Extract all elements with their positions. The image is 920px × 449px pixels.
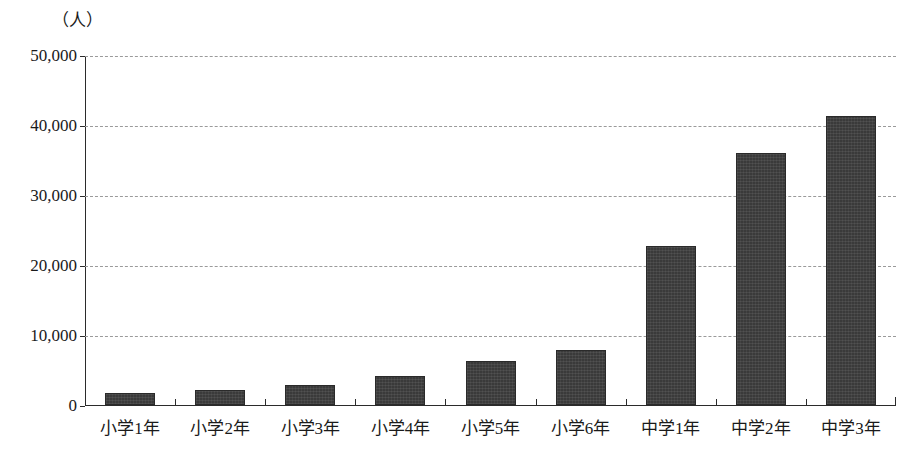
x-axis-tick xyxy=(355,399,356,406)
x-axis-tick xyxy=(536,399,537,406)
bar xyxy=(285,385,335,405)
plot-inner: 010,00020,00030,00040,00050,000 xyxy=(85,56,896,406)
y-axis-tick xyxy=(80,336,85,337)
y-axis-tick xyxy=(80,266,85,267)
x-axis-tick xyxy=(445,399,446,406)
y-axis-tick xyxy=(80,196,85,197)
bar-chart: （人） 010,00020,00030,00040,00050,000 小学1年… xyxy=(0,0,920,449)
y-axis-tick-label: 30,000 xyxy=(30,186,77,206)
y-axis-tick xyxy=(80,406,85,407)
plot-area: 010,00020,00030,00040,00050,000 xyxy=(85,56,896,406)
x-axis-line xyxy=(85,405,896,406)
y-axis-tick-label: 40,000 xyxy=(30,116,77,136)
x-axis-category-label: 小学5年 xyxy=(445,414,535,439)
x-axis-category-label: 小学3年 xyxy=(265,414,355,439)
x-axis-tick xyxy=(626,399,627,406)
y-axis-tick-label: 50,000 xyxy=(30,46,77,66)
x-axis-tick xyxy=(175,399,176,406)
x-axis-tick xyxy=(265,399,266,406)
x-axis-right-cap xyxy=(895,397,896,406)
gridline xyxy=(85,56,896,57)
x-axis-category-label: 中学1年 xyxy=(626,414,716,439)
bar xyxy=(105,393,155,405)
x-axis-tick xyxy=(806,399,807,406)
bar xyxy=(556,350,606,405)
y-axis-tick-label: 10,000 xyxy=(30,326,77,346)
bar xyxy=(826,116,876,405)
x-axis-category-label: 小学6年 xyxy=(536,414,626,439)
bar xyxy=(466,361,516,405)
y-axis-tick-label: 20,000 xyxy=(30,256,77,276)
x-axis-category-label: 小学2年 xyxy=(175,414,265,439)
bar xyxy=(736,153,786,405)
bar xyxy=(375,376,425,405)
x-axis-category-label: 小学1年 xyxy=(85,414,175,439)
x-axis-category-label: 小学4年 xyxy=(355,414,445,439)
y-axis-line xyxy=(85,56,86,406)
y-axis-unit-label: （人） xyxy=(52,6,103,31)
y-axis-tick-label: 0 xyxy=(69,396,78,416)
bar xyxy=(195,390,245,405)
x-axis-category-label: 中学3年 xyxy=(806,414,896,439)
x-axis-tick xyxy=(716,399,717,406)
y-axis-tick xyxy=(80,126,85,127)
bar xyxy=(646,246,696,405)
y-axis-tick xyxy=(80,56,85,57)
gridline xyxy=(85,126,896,127)
x-axis-category-label: 中学2年 xyxy=(716,414,806,439)
